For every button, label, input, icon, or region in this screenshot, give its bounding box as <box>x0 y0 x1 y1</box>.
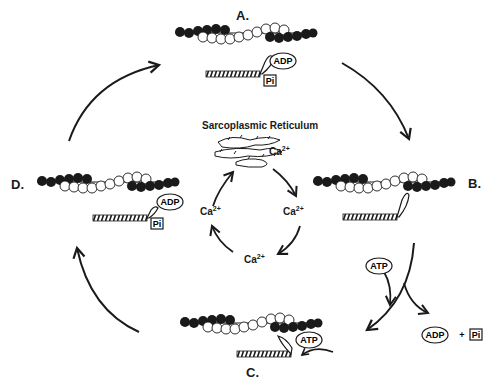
pi-label: Pi <box>266 76 275 86</box>
arrow-atp-in <box>384 272 390 305</box>
arrow-b-to-c <box>367 243 414 330</box>
arrow-sr-release <box>273 169 296 196</box>
state-b-label: B. <box>468 176 481 191</box>
sarcoplasmic-reticulum-title: Sarcoplasmic Reticulum <box>202 120 318 131</box>
atp-label: ATP <box>370 261 387 271</box>
plus-sign: + <box>459 330 464 340</box>
ca-ion-bottom: Ca2+ <box>244 253 265 265</box>
atp-label: ATP <box>300 335 317 345</box>
state-d-cross-bridge: ADP Pi <box>37 172 183 229</box>
state-a-cross-bridge: ADP Pi <box>175 23 318 86</box>
myosin-head <box>397 193 409 217</box>
arrow-to-adp-pi <box>404 283 428 313</box>
state-a-label: A. <box>236 8 249 23</box>
ca-ion-sr: Ca2+ <box>269 145 290 157</box>
adp-label: ADP <box>273 56 292 66</box>
arrow-ca-down <box>278 226 300 254</box>
state-c-label: C. <box>246 365 259 380</box>
arrow-ca-to-sr <box>213 172 233 206</box>
atp-binding-arrow <box>302 349 333 355</box>
ca-ion-left: Ca2+ <box>200 205 221 217</box>
pi-label: Pi <box>153 219 162 229</box>
ca-ion-right: Ca2+ <box>283 205 304 217</box>
state-b-cross-bridge <box>313 172 456 220</box>
pi-label: Pi <box>472 330 481 340</box>
myosin-head <box>147 207 158 218</box>
arrow-d-to-a <box>69 65 159 141</box>
adp-label: ADP <box>425 330 444 340</box>
cross-bridge-diagram: ADP Pi ATP ADP Pi ATP ADP + Pi <box>0 0 492 384</box>
arrow-a-to-b <box>342 63 409 139</box>
state-d-label: D. <box>11 177 24 192</box>
state-c-cross-bridge: ATP <box>180 313 333 357</box>
arrow-c-to-d <box>77 248 139 332</box>
adp-label: ADP <box>160 197 179 207</box>
arrow-ca-up <box>212 226 233 252</box>
